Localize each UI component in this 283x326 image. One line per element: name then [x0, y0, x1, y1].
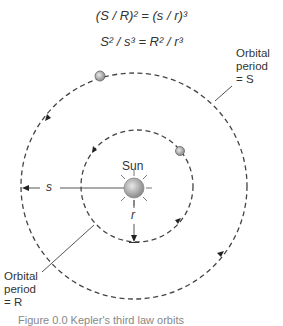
inner-planet — [176, 147, 185, 156]
outer-orbit-arrow — [217, 251, 224, 257]
inner-orbit-arrow — [92, 146, 97, 153]
r-label: r — [131, 209, 135, 222]
outer-period-leader — [215, 86, 232, 101]
figure-caption: Figure 0.0 Kepler's third law orbits — [18, 314, 184, 326]
sun — [124, 178, 144, 198]
r-arrowhead — [131, 235, 137, 242]
s-label: s — [46, 181, 52, 194]
sun-label: Sun — [122, 160, 143, 173]
inner-period-leader — [42, 225, 94, 272]
s-arrowhead — [22, 185, 29, 191]
outer-period-label: Orbital period = S — [236, 47, 270, 86]
outer-planet — [95, 71, 105, 81]
inner-period-label: Orbital period = R — [4, 270, 38, 309]
outer-orbit-arrow — [45, 114, 51, 121]
